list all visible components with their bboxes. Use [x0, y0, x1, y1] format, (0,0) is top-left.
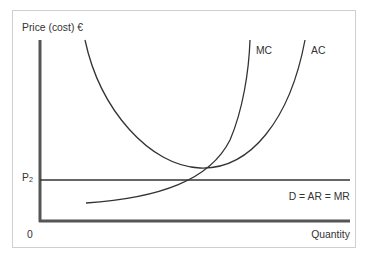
ac-curve	[85, 40, 305, 168]
origin-label: 0	[27, 229, 33, 241]
price-level-subscript: 2	[29, 175, 33, 184]
mc-curve-label: MC	[256, 45, 272, 57]
mc-curve	[86, 40, 250, 203]
x-axis-label: Quantity	[311, 229, 350, 241]
demand-curve-label: D = AR = MR	[289, 191, 350, 203]
price-level-label: P2	[22, 172, 33, 184]
y-axis-label: Price (cost) €	[22, 22, 83, 34]
price-level-letter: P	[22, 171, 29, 183]
ac-curve-label: AC	[311, 45, 325, 57]
cost-curves-diagram	[0, 0, 376, 265]
